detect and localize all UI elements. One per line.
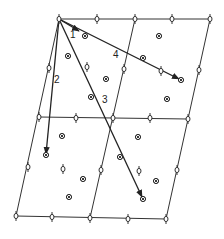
circled-x-icon — [153, 178, 158, 183]
lattice-canvas — [0, 0, 224, 239]
open-diamond-icon — [159, 66, 163, 76]
vector-arrow-2 — [46, 19, 59, 154]
lattice-diagram: 1 2 3 4 — [0, 0, 224, 239]
vector-label-4: 4 — [113, 50, 119, 60]
circled-x-icon — [178, 77, 183, 82]
circled-x-icon — [103, 76, 108, 81]
circled-x-icon — [135, 134, 140, 139]
open-diamond-icon — [37, 112, 41, 122]
circled-x-icon — [164, 96, 169, 101]
open-diamond-icon — [14, 211, 18, 221]
circled-x-icon — [59, 133, 64, 138]
circled-x-icon — [156, 33, 161, 38]
open-diamond-icon — [95, 14, 99, 24]
open-diamond-icon — [85, 62, 89, 72]
circled-x-icon — [43, 152, 48, 157]
open-diamond-icon — [133, 14, 137, 24]
vector-label-2: 2 — [54, 75, 60, 85]
open-diamond-icon — [170, 14, 174, 24]
open-diamond-icon — [88, 213, 92, 223]
open-diamond-icon — [126, 214, 130, 224]
circled-x-icon — [82, 33, 87, 38]
vectors — [46, 19, 179, 197]
open-diamond-icon — [137, 166, 141, 176]
circled-x-icon — [80, 176, 85, 181]
open-diamond-icon — [26, 162, 30, 172]
open-diamond-icon — [50, 212, 54, 222]
open-diamond-icon — [208, 14, 212, 24]
circled-x-icon — [117, 154, 122, 159]
circled-x-icon — [88, 94, 93, 99]
open-diamond-icon — [148, 113, 152, 123]
open-diamond-icon — [186, 114, 190, 124]
open-diamond-icon — [164, 214, 168, 224]
circled-x-icon — [140, 196, 145, 201]
circled-x-icon — [65, 53, 70, 58]
vector-label-1: 1 — [70, 30, 76, 40]
circled-x-icon — [140, 55, 145, 60]
circled-x-icon — [66, 194, 71, 199]
open-diamond-icon — [61, 164, 65, 174]
vector-label-3: 3 — [102, 95, 108, 105]
open-diamond-icon — [74, 113, 78, 123]
